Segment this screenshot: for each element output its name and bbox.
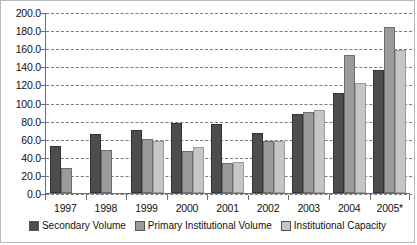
y-axis-tick-label: 0.0 (1, 188, 41, 200)
bar[interactable] (395, 50, 406, 193)
bar-group (208, 13, 248, 193)
bar-group (248, 13, 288, 193)
bar-group (329, 13, 369, 193)
bar[interactable] (211, 124, 222, 193)
plot-area (45, 13, 410, 194)
x-axis-tick-label: 1998 (86, 195, 127, 217)
y-axis-tick-label: 40.0 (1, 152, 41, 164)
x-axis-tick (329, 195, 330, 200)
chart-container: 200.0180.0160.0140.0120.0100.080.060.040… (0, 0, 415, 243)
x-axis-tick (409, 195, 410, 200)
legend-label: Primary Institutional Volume (148, 220, 272, 231)
x-axis-label-text: 1998 (95, 202, 118, 214)
y-axis-tick-label: 120.0 (1, 79, 41, 91)
bar[interactable] (292, 114, 303, 193)
legend-swatch-icon (281, 221, 291, 231)
x-axis-label-text: 2000 (176, 202, 199, 214)
x-axis-label-text: 2004 (338, 202, 361, 214)
y-axis-tick-label: 100.0 (1, 98, 41, 110)
legend-item[interactable]: Primary Institutional Volume (135, 220, 272, 231)
x-axis-tick (207, 195, 208, 200)
x-axis-tick-label: 1997 (45, 195, 86, 217)
x-axis-tick (248, 195, 249, 200)
bar[interactable] (384, 27, 395, 193)
x-axis-label-text: 1999 (135, 202, 158, 214)
bar-group (289, 13, 329, 193)
chart-legend: Secondary VolumePrimary Institutional Vo… (1, 220, 414, 231)
x-axis-label-text: 2003 (297, 202, 320, 214)
x-axis-label-text: 2005* (377, 202, 403, 214)
bar-group (127, 13, 167, 193)
legend-swatch-icon (135, 221, 145, 231)
x-axis-tick (167, 195, 168, 200)
x-axis-tick-label: 2004 (329, 195, 370, 217)
y-axis-tick-label: 160.0 (1, 43, 41, 55)
x-axis-tick (370, 195, 371, 200)
bar[interactable] (90, 134, 101, 193)
x-axis-label-text: 2001 (216, 202, 239, 214)
x-axis-tick (86, 195, 87, 200)
y-axis-tick-label: 20.0 (1, 170, 41, 182)
bar-group (167, 13, 207, 193)
bar[interactable] (131, 130, 142, 193)
x-axis-tick-label: 2005* (370, 195, 411, 217)
legend-item[interactable]: Institutional Capacity (281, 220, 386, 231)
x-axis-labels: 199719981999200020012002200320042005* (45, 195, 410, 217)
x-axis-tick-label: 2002 (248, 195, 289, 217)
bar[interactable] (252, 133, 263, 193)
y-axis-tick-label: 200.0 (1, 7, 41, 19)
x-axis-tick-label: 2003 (288, 195, 329, 217)
x-axis-tick (288, 195, 289, 200)
y-axis-tick-label: 80.0 (1, 116, 41, 128)
x-axis-tick-label: 2000 (167, 195, 208, 217)
bar[interactable] (222, 163, 233, 193)
bar[interactable] (263, 141, 274, 193)
x-axis-label-text: 1997 (54, 202, 77, 214)
y-axis-tick-label: 60.0 (1, 134, 41, 146)
bar[interactable] (274, 141, 285, 193)
bar[interactable] (101, 150, 112, 193)
bar[interactable] (233, 162, 244, 193)
bar[interactable] (50, 146, 61, 193)
bar[interactable] (142, 139, 153, 193)
x-axis-tick-label: 2001 (207, 195, 248, 217)
legend-label: Institutional Capacity (294, 220, 386, 231)
bar-group (370, 13, 410, 193)
bar-groups (46, 13, 410, 193)
bar-group (46, 13, 86, 193)
bar[interactable] (355, 83, 366, 193)
bar[interactable] (314, 110, 325, 193)
bar-group (86, 13, 126, 193)
bar[interactable] (333, 93, 344, 193)
bar[interactable] (193, 147, 204, 193)
bar[interactable] (373, 70, 384, 193)
y-axis-tick-label: 140.0 (1, 61, 41, 73)
bar[interactable] (171, 123, 182, 193)
legend-swatch-icon (29, 221, 39, 231)
x-axis-tick (45, 195, 46, 200)
bar[interactable] (182, 151, 193, 193)
y-axis-tick-label: 180.0 (1, 25, 41, 37)
bar[interactable] (61, 168, 72, 193)
x-axis-tick-label: 1999 (126, 195, 167, 217)
bar[interactable] (344, 55, 355, 193)
bar[interactable] (303, 112, 314, 193)
x-axis-tick (126, 195, 127, 200)
bar[interactable] (153, 141, 164, 193)
legend-item[interactable]: Secondary Volume (29, 220, 126, 231)
x-axis-label-text: 2002 (257, 202, 280, 214)
legend-label: Secondary Volume (42, 220, 126, 231)
